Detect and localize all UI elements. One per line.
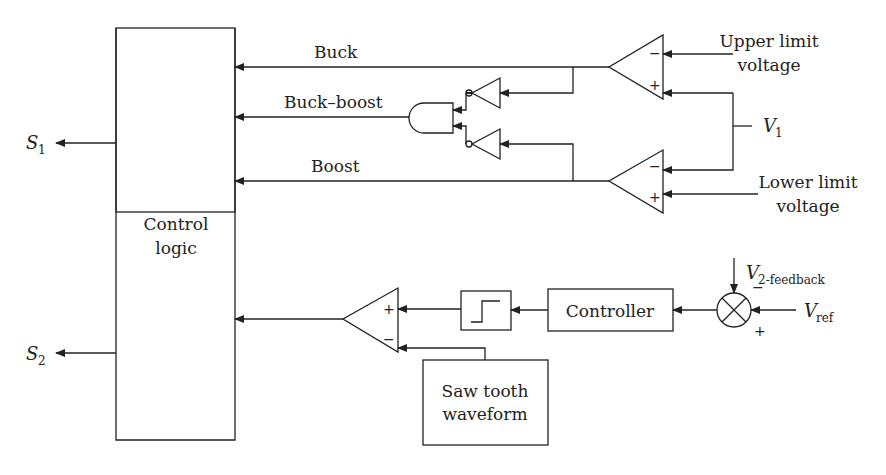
step-block [461,291,548,330]
v1-input: V 1 [663,93,783,170]
sawtooth-block: Saw tooth waveform [423,360,548,445]
svg-text:Upper limit: Upper limit [720,31,819,51]
and-gate [409,103,453,133]
svg-text:−: − [383,331,395,347]
svg-text:2: 2 [38,354,46,368]
svg-text:Controller: Controller [566,301,655,321]
svg-text:S: S [26,343,38,364]
svg-text:1: 1 [38,143,46,157]
svg-text:+: + [649,77,661,93]
svg-text:−: − [649,158,661,174]
svg-text:2-feedback: 2-feedback [758,273,826,287]
s2-output: S 2 [26,343,116,368]
svg-text:Buck–boost: Buck–boost [284,92,383,112]
svg-text:Lower limit: Lower limit [759,172,858,192]
svg-text:Buck: Buck [314,42,358,62]
svg-text:Boost: Boost [311,156,360,176]
inverter-bottom [453,126,573,181]
svg-text:+: + [649,189,661,205]
upper-comparator: − + Upper limit voltage [609,31,819,99]
controller-block: Controller [548,289,717,331]
svg-text:+: + [754,323,766,339]
control-logic-block: Control logic [116,28,235,440]
s1-output: S 1 [26,132,116,157]
svg-text:−: − [649,45,661,61]
inverter-top [453,67,573,110]
svg-text:S: S [26,132,38,153]
control-logic-label-1: Control [144,214,209,234]
boost-signal: Boost [235,156,609,181]
svg-text:ref: ref [816,311,835,325]
summing-junction: − + V 2-feedback V ref [717,258,835,339]
svg-text:+: + [383,301,395,317]
svg-text:Saw tooth: Saw tooth [442,381,529,401]
pwm-comparator: + − [235,288,485,363]
control-logic-label-2: logic [155,238,197,258]
block-diagram: Control logic S 1 S 2 Buck Buck–boost Bo… [0,0,886,475]
buck-signal: Buck [235,42,609,67]
svg-text:voltage: voltage [775,196,839,216]
svg-text:1: 1 [775,126,783,140]
svg-text:waveform: waveform [442,404,527,424]
buck-boost-signal: Buck–boost [235,92,422,117]
svg-text:voltage: voltage [736,55,800,75]
